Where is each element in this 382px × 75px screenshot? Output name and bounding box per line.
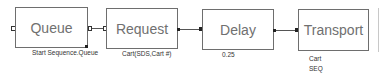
offscreen-block-edge: [378, 8, 379, 52]
queue-block[interactable]: Queue: [15, 7, 88, 48]
delay-block[interactable]: Delay: [202, 9, 274, 50]
transport-block-label-line-2: SEQ: [309, 65, 323, 72]
request-block-label: Cart(SDS,Cart #): [122, 50, 171, 57]
wire-request-to-delay: [180, 29, 200, 30]
transport-block-title: Transport: [304, 22, 363, 38]
delay-block-label: 0.25: [222, 51, 235, 58]
queue-block-title: Queue: [30, 20, 72, 36]
delay-block-title: Delay: [220, 22, 256, 38]
request-block-title: Request: [116, 21, 168, 37]
transport-block[interactable]: Transport: [298, 9, 369, 51]
wire-delay-to-transport: [276, 30, 296, 31]
queue-block-label: Start Sequence.Queue: [32, 49, 98, 56]
transport-block-label-line-1: Cart: [309, 55, 321, 62]
request-block[interactable]: Request: [106, 8, 178, 49]
queue-bottom-port[interactable]: [85, 45, 88, 48]
